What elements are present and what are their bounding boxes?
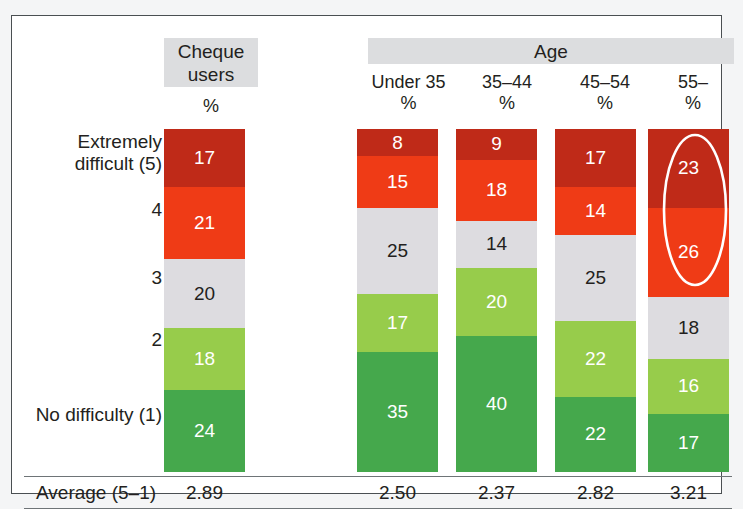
group-header-cheque-users: Cheque users	[164, 38, 258, 87]
column-header-cheque-users-pct: %	[164, 96, 258, 116]
bar-column-under-35[interactable]: 8 15 25 17 35	[357, 129, 438, 472]
row-label-2: 2	[22, 329, 162, 351]
bar-segment[interactable]: 22	[555, 321, 636, 396]
bar-segment-value: 22	[585, 348, 606, 370]
bar-segment[interactable]: 25	[357, 208, 438, 294]
bar-segment-value: 20	[194, 283, 215, 305]
bar-column-cheque-users[interactable]: 17 21 20 18 24	[164, 129, 245, 472]
average-value-35-44: 2.37	[456, 482, 537, 504]
bar-segment[interactable]: 40	[456, 336, 537, 472]
bar-segment-value: 17	[678, 432, 699, 454]
bar-segment-value: 24	[194, 420, 215, 442]
row-label-no-difficulty: No difficulty (1)	[12, 404, 162, 426]
bar-segment[interactable]: 8	[357, 129, 438, 156]
column-header-55-plus-pct: %	[650, 93, 736, 113]
bar-segment[interactable]: 20	[164, 259, 245, 328]
bar-segment[interactable]: 14	[555, 187, 636, 235]
column-header-35-44: 35–44	[455, 72, 559, 92]
column-header-55-plus: 55–	[650, 72, 736, 92]
bar-segment[interactable]: 26	[648, 208, 729, 297]
column-header-35-44-pct: %	[455, 93, 559, 113]
bar-segment-value: 8	[392, 132, 403, 154]
bar-segment-value: 35	[387, 401, 408, 423]
group-header-age: Age	[368, 38, 734, 64]
bar-segment-value: 14	[585, 200, 606, 222]
bar-segment[interactable]: 17	[357, 294, 438, 352]
average-row-top-rule	[24, 476, 732, 477]
bar-column-35-44[interactable]: 9 18 14 20 40	[456, 129, 537, 472]
bar-segment[interactable]: 35	[357, 352, 438, 472]
bar-segment[interactable]: 18	[164, 328, 245, 390]
bar-segment-value: 17	[194, 147, 215, 169]
bar-segment-value: 15	[387, 171, 408, 193]
bar-segment-value: 25	[585, 267, 606, 289]
bar-column-55-plus[interactable]: 23 26 18 16 17	[648, 129, 729, 472]
average-value-55-plus: 3.21	[648, 482, 729, 504]
bar-segment[interactable]: 20	[456, 268, 537, 336]
bar-segment-value: 17	[387, 312, 408, 334]
bar-segment-value: 16	[678, 375, 699, 397]
bar-segment[interactable]: 24	[164, 390, 245, 472]
bar-segment-value: 22	[585, 423, 606, 445]
bar-segment-value: 21	[194, 212, 215, 234]
bar-segment[interactable]: 17	[555, 129, 636, 187]
bar-segment-value: 26	[678, 241, 699, 263]
bar-segment[interactable]: 17	[164, 129, 245, 187]
bar-segment-value: 20	[486, 291, 507, 313]
bar-segment-value: 9	[491, 133, 502, 155]
column-header-under-35-pct: %	[353, 93, 464, 113]
average-row-label: Average (5–1)	[36, 482, 156, 504]
column-header-under-35: Under 35	[353, 72, 464, 92]
bar-segment-value: 25	[387, 240, 408, 262]
bar-segment[interactable]: 18	[648, 297, 729, 359]
row-label-extremely-difficult: Extremely difficult (5)	[22, 131, 162, 175]
column-header-45-54-pct: %	[553, 93, 657, 113]
bar-segment-value: 18	[194, 348, 215, 370]
average-value-cheque-users: 2.89	[164, 482, 245, 504]
average-value-under-35: 2.50	[357, 482, 438, 504]
bar-segment-value: 18	[486, 179, 507, 201]
bar-segment[interactable]: 15	[357, 156, 438, 207]
average-value-45-54: 2.82	[555, 482, 636, 504]
bar-segment-value: 14	[486, 233, 507, 255]
bar-segment-value: 23	[678, 157, 699, 179]
row-label-4: 4	[22, 199, 162, 221]
bar-segment-value: 18	[678, 317, 699, 339]
bar-segment[interactable]: 17	[648, 414, 729, 472]
bar-segment[interactable]: 22	[555, 397, 636, 472]
bar-segment[interactable]: 23	[648, 129, 729, 208]
bar-segment[interactable]: 9	[456, 129, 537, 160]
column-header-45-54: 45–54	[553, 72, 657, 92]
bar-segment[interactable]: 21	[164, 187, 245, 259]
bar-segment[interactable]: 14	[456, 221, 537, 269]
bar-segment-value: 40	[486, 393, 507, 415]
bar-segment-value: 17	[585, 147, 606, 169]
bar-segment[interactable]: 18	[456, 160, 537, 221]
figure-frame: Cheque users Age % Under 35 % 35–44 % 45…	[11, 15, 722, 494]
bar-segment[interactable]: 25	[555, 235, 636, 321]
bar-column-45-54[interactable]: 17 14 25 22 22	[555, 129, 636, 472]
bar-segment[interactable]: 16	[648, 359, 729, 414]
row-label-3: 3	[22, 267, 162, 289]
